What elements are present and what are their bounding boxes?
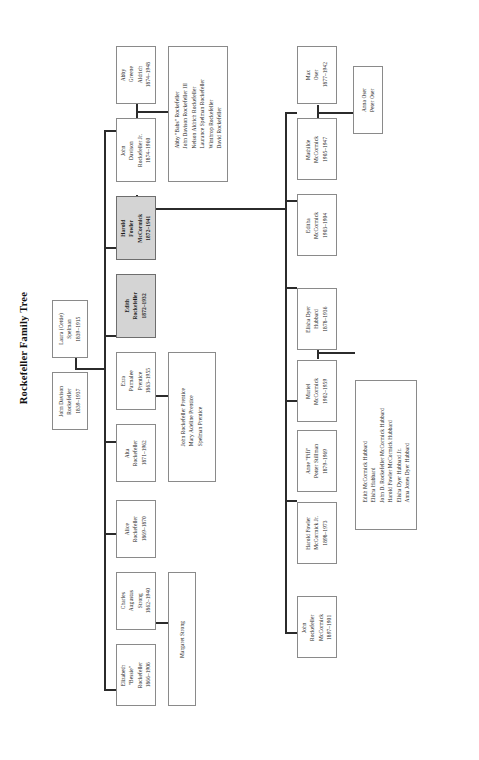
node-dates: 1877–1942: [322, 62, 328, 87]
node-max-oser[interactable]: Max Oser 1877–1942: [297, 46, 337, 104]
connector-spine-mccormick-children: [285, 112, 287, 632]
node-dates: 1871–1962: [141, 440, 147, 465]
node-edith-rockefeller[interactable]: Edith Rockefeller 1872–1932: [116, 274, 156, 338]
connector: [104, 247, 116, 249]
node-dates: 1879–1969: [322, 448, 328, 473]
node-muriel-mccormick[interactable]: Muriel McCormick 1902–1959: [297, 360, 337, 422]
node-prentice-children[interactable]: John Rockefeller PrenticeMary Adeline Pr…: [168, 352, 216, 482]
connector: [104, 335, 116, 337]
node-line: Max: [305, 70, 311, 80]
node-line: Hubbard: [314, 309, 320, 329]
node-line: Augustus: [129, 590, 135, 611]
children-list-item: Nelson Aldrich Rockefeller: [191, 87, 197, 149]
node-dates: 1872–1932: [141, 293, 147, 318]
connector: [285, 200, 297, 202]
node-line: Ezra: [120, 376, 126, 386]
connector: [285, 112, 297, 114]
node-line: Charles: [120, 592, 126, 609]
node-ezra-prentice[interactable]: Ezra Parmalee Prentice 1863–1955: [116, 352, 156, 410]
node-dates: 1839–1915: [75, 316, 81, 341]
node-line: Greene: [129, 67, 135, 83]
node-dates: 1874–1960: [145, 137, 151, 162]
node-line: Rockefeller: [137, 662, 143, 688]
connector: [75, 368, 105, 370]
node-hubbard-children[interactable]: Edith McCormick HubbardElisha HubbardJoh…: [355, 380, 417, 530]
children-list-item: Laurance Spelman Rockefeller: [199, 79, 205, 149]
children-list-item: David Rockefeller: [216, 107, 222, 148]
children-list-item: John Davison Rockefeller III: [182, 83, 188, 149]
node-line: John: [120, 145, 126, 156]
node-laura-spelman[interactable]: Laura (Cettie) Spelman 1839–1915: [52, 300, 88, 358]
children-list: Abby "Babs" RockefellerJohn Davison Rock…: [173, 79, 223, 149]
node-harold-jr[interactable]: Harold Fowler McCormick Jr. 1898–1973: [297, 502, 337, 564]
node-dates: 1903–1904: [322, 212, 328, 237]
connector: [285, 400, 297, 402]
node-elisha-hubbard[interactable]: Elisha Dyer Hubbard 1878–1936: [297, 288, 337, 350]
node-dates: 1897–1901: [326, 614, 332, 639]
node-editha-mccormick[interactable]: Editha McCormick 1903–1904: [297, 194, 337, 256]
node-line: Parmalee: [129, 371, 135, 392]
connector: [136, 111, 168, 113]
children-list-item: John D. Rockefeller McCormick Hubbard: [379, 408, 385, 503]
node-line: McCormick: [314, 136, 320, 163]
node-alta-rockefeller[interactable]: Alta Rockefeller 1871–1962: [116, 424, 156, 482]
children-list: Edith McCormick HubbardElisha HubbardJoh…: [361, 408, 411, 503]
node-line: Editha: [305, 218, 311, 233]
node-charles-strong[interactable]: Charles Augustus Strong 1862–1940: [116, 572, 156, 630]
node-elizabeth-rockefeller[interactable]: Elizabeth "Bessie" Rockefeller 1866–1906: [116, 644, 156, 706]
children-list: Anna OserPeter Oser: [360, 88, 377, 112]
node-jdr-jr[interactable]: John Davison Rockefeller Jr. 1874–1960: [116, 118, 156, 182]
connector: [104, 441, 116, 443]
page-title: Rockefeller Family Tree: [18, 292, 29, 404]
connector: [285, 500, 297, 502]
node-line: Rockefeller: [310, 614, 316, 640]
node-line: Spelman: [67, 319, 73, 339]
node-abby-aldrich[interactable]: Abby Greene Aldrich 1874–1948: [116, 46, 156, 104]
node-line: Fowler: [129, 220, 135, 237]
connector: [104, 533, 116, 535]
node-oser-children[interactable]: Anna OserPeter Oser: [353, 66, 383, 134]
node-mathilde-mccormick[interactable]: Mathilde McCormick 1905–1947: [297, 118, 337, 180]
node-line: Mathilde: [305, 139, 311, 159]
node-line: Rockefeller: [133, 292, 139, 319]
node-line: Elisha Dyer: [305, 306, 311, 333]
node-line: Laura (Cettie): [58, 313, 64, 345]
children-list-item: Edith McCormick Hubbard: [362, 441, 368, 503]
node-line: Aldrich: [137, 66, 143, 83]
children-list-item: Anna Jones Dyer Hubbard: [404, 443, 410, 503]
node-line: Harold Fowler: [305, 517, 311, 550]
node-line: "Bessie": [129, 665, 135, 684]
node-margaret-strong[interactable]: Margaret Strong: [168, 572, 196, 706]
node-john-d-rockefeller[interactable]: John Davison Rockefeller 1839–1937: [52, 372, 88, 430]
node-dates: 1869–1870: [141, 516, 147, 541]
children-list-item: John Rockefeller Prentice: [180, 388, 186, 446]
children-list-item: Abby "Babs" Rockefeller: [174, 91, 180, 148]
connector-spine-jdr-children: [104, 130, 106, 690]
connector: [136, 208, 286, 210]
connector: [317, 352, 355, 354]
node-harold-fowler-mccormick[interactable]: Harold Fowler McCormick 1872–1941: [116, 196, 156, 260]
node-line: Rockefeller: [133, 516, 139, 542]
node-line: Muriel: [305, 383, 311, 398]
node-jdr-jr-children[interactable]: Abby "Babs" RockefellerJohn Davison Rock…: [168, 46, 228, 182]
node-line: Rockefeller Jr.: [137, 134, 143, 167]
children-list-item: Spelman Prentice: [197, 407, 203, 446]
node-anne-stillman[interactable]: Anne "Fifi" Potter Stillman 1879–1969: [297, 430, 337, 492]
node-line: McCormick: [318, 614, 324, 641]
node-john-r-mccormick[interactable]: John Rockefeller McCormick 1897–1901: [297, 596, 337, 658]
node-line: Oser: [314, 70, 320, 81]
node-dates: 1839–1937: [75, 388, 81, 413]
node-line: Margaret Strong: [179, 621, 185, 658]
children-list-item: Anna Oser: [361, 88, 367, 112]
node-line: Elizabeth: [120, 664, 126, 685]
node-line: Abby: [120, 69, 126, 81]
node-line: Davison: [129, 141, 135, 160]
connector: [285, 287, 297, 289]
node-line: Alta: [124, 448, 130, 458]
node-dates: 1878–1936: [322, 306, 328, 331]
node-alice-rockefeller[interactable]: Alice Rockefeller 1869–1870: [116, 500, 156, 558]
children-list-item: Winthrop Rockefeller: [207, 100, 213, 149]
node-line: Rockefeller: [67, 388, 73, 414]
node-dates: 1874–1948: [145, 62, 151, 87]
connector: [317, 112, 353, 114]
